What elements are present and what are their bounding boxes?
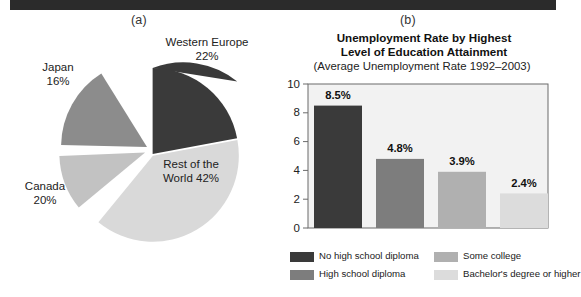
bar-chart-title-line-1: Unemployment Rate by Highest xyxy=(290,31,558,45)
legend-label-1: No high school diploma xyxy=(319,250,419,262)
bar-chart-plot: 0 2 4 6 8 10 8.5% 4.8% 3.9% 2.4% xyxy=(286,80,558,240)
legend-swatch-icon-4 xyxy=(434,270,458,280)
pie-slice-western-europe[interactable] xyxy=(153,62,238,154)
bar-no-high-school-diploma xyxy=(314,106,362,228)
bar-bachelors-degree-or-higher xyxy=(500,193,548,228)
pie-label-western-europe: Western Europe 22% xyxy=(152,36,262,63)
pie-label-canada: Canada 20% xyxy=(6,180,84,207)
bar-chart-title-line-2: Level of Education Attainment xyxy=(290,45,558,59)
bar-value-label-1: 8.5% xyxy=(315,89,361,101)
bar-some-college xyxy=(438,172,486,228)
bar-value-label-2: 4.8% xyxy=(377,142,423,154)
pie-label-japan: Japan 16% xyxy=(22,61,94,88)
y-tick-2: 2 xyxy=(280,193,300,205)
header-rule xyxy=(10,0,556,10)
bar-chart-legend: No high school diploma High school diplo… xyxy=(290,250,562,290)
y-tick-8: 8 xyxy=(280,106,300,118)
y-tick-6: 6 xyxy=(280,135,300,147)
panel-a-caption: (a) xyxy=(131,13,147,27)
bar-value-label-4: 2.4% xyxy=(501,177,547,189)
panel-b-caption: (b) xyxy=(400,13,416,27)
bar-chart-panel: Unemployment Rate by Highest Level of Ed… xyxy=(278,28,566,297)
legend-label-2: High school diploma xyxy=(319,268,405,280)
y-tick-10: 10 xyxy=(274,78,300,90)
bar-chart-subtitle: (Average Unemployment Rate 1992–2003) xyxy=(282,60,562,72)
bar-high-school-diploma xyxy=(376,159,424,228)
legend-swatch-icon-1 xyxy=(290,252,314,262)
y-tick-0: 0 xyxy=(280,222,300,234)
legend-label-3: Some college xyxy=(463,250,521,262)
y-tick-4: 4 xyxy=(280,164,300,176)
bar-chart-svg xyxy=(286,80,558,240)
bar-value-label-3: 3.9% xyxy=(439,155,485,167)
legend-swatch-icon-2 xyxy=(290,270,314,280)
legend-label-4: Bachelor's degree or higher xyxy=(463,268,581,280)
pie-label-rest-of-world: Rest of the World 42% xyxy=(148,158,234,185)
legend-swatch-icon-3 xyxy=(434,252,458,262)
bar-chart-title: Unemployment Rate by Highest Level of Ed… xyxy=(290,31,558,58)
y-axis-ticks xyxy=(303,84,308,228)
pie-chart-panel: Western Europe 22% Japan 16% Canada 20% … xyxy=(0,28,278,297)
